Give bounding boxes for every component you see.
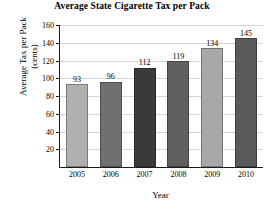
chart-title: Average State Cigarette Tax per Pack — [0, 1, 264, 11]
y-axis-title-line-1: Average Tax per Pack — [18, 0, 29, 137]
x-axis-tick-label: 2006 — [103, 170, 119, 179]
bar[interactable]: 1122007 — [134, 68, 156, 167]
y-axis-tick — [56, 25, 61, 26]
y-axis-tick — [56, 78, 61, 79]
y-axis-title-line-2: (cents) — [28, 0, 39, 137]
bar-chart: Average State Cigarette Tax per Pack Ave… — [0, 0, 268, 211]
gridline — [60, 114, 263, 115]
gridline — [60, 43, 263, 44]
x-axis-title: Year — [59, 190, 262, 200]
gridline — [60, 96, 263, 97]
y-axis-tick — [56, 61, 61, 62]
bar-value-label: 119 — [173, 52, 185, 61]
y-axis-tick-label: 140 — [42, 38, 54, 47]
bar[interactable]: 1192008 — [167, 61, 189, 167]
x-axis-tick-label: 2008 — [170, 170, 186, 179]
gridline — [60, 61, 263, 62]
y-axis-tick-label: 100 — [42, 74, 54, 83]
y-axis-tick-label: 120 — [42, 56, 54, 65]
x-axis-tick-label: 2009 — [204, 170, 220, 179]
bar-value-label: 134 — [206, 39, 218, 48]
gridline — [60, 25, 263, 26]
bar-value-label: 112 — [139, 58, 151, 67]
x-axis-tick-label: 2010 — [238, 170, 254, 179]
y-axis-tick — [56, 96, 61, 97]
y-axis-tick — [56, 149, 61, 150]
bar-value-label: 96 — [107, 72, 115, 81]
y-axis-tick — [56, 43, 61, 44]
bar-value-label: 145 — [240, 29, 252, 38]
bar[interactable]: 1452010 — [235, 38, 257, 167]
x-axis-tick-label: 2005 — [69, 170, 85, 179]
y-axis-tick-label: 40 — [46, 127, 54, 136]
y-axis-title: Average Tax per Pack (cents) — [18, 0, 39, 137]
gridline — [60, 78, 263, 79]
y-axis-tick — [56, 132, 61, 133]
gridline — [60, 149, 263, 150]
y-axis-tick — [56, 114, 61, 115]
gridline — [60, 132, 263, 133]
y-axis-tick-label: 60 — [46, 109, 54, 118]
y-axis-tick-label: 80 — [46, 92, 54, 101]
y-axis-tick-label: 20 — [46, 145, 54, 154]
bar[interactable]: 962006 — [100, 82, 122, 167]
bar[interactable]: 1342009 — [201, 48, 223, 167]
x-axis-tick-label: 2007 — [137, 170, 153, 179]
y-axis-tick-label: 160 — [42, 21, 54, 30]
plot-area: 2040608010012014016093200596200611220071… — [59, 25, 263, 168]
bar[interactable]: 932005 — [66, 84, 88, 167]
bar-value-label: 93 — [73, 75, 81, 84]
